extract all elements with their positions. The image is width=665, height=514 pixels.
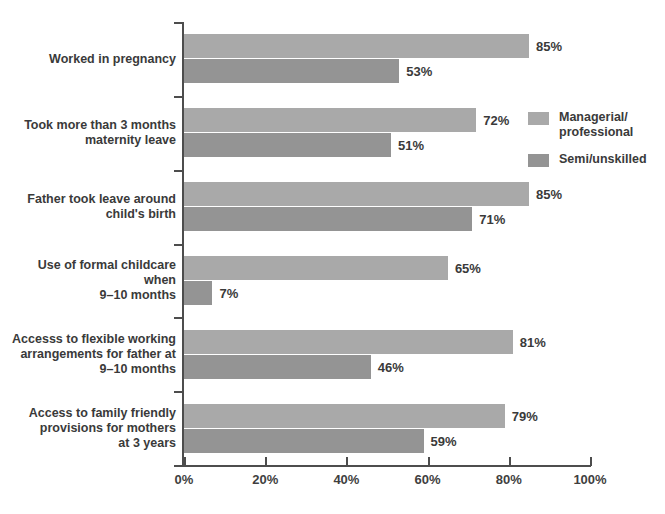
bar-chart: Worked in pregnancyTook more than 3 mont… xyxy=(0,0,665,514)
category-label: Worked in pregnancy xyxy=(4,51,176,66)
y-axis-tick xyxy=(174,170,183,172)
x-axis-tick xyxy=(346,457,348,466)
x-axis-tick-label: 60% xyxy=(415,472,441,487)
x-axis-line xyxy=(183,465,591,467)
legend-swatch-semi-unskilled xyxy=(528,154,549,167)
bar-value-label: 46% xyxy=(378,359,404,374)
y-axis-tick xyxy=(174,96,183,98)
bar-value-label: 51% xyxy=(398,138,424,153)
category-label: Accesss to flexible working arrangements… xyxy=(4,332,176,377)
bar-value-label: 59% xyxy=(431,433,457,448)
bar-value-label: 85% xyxy=(536,39,562,54)
x-axis-tick xyxy=(428,457,430,466)
x-axis-tick xyxy=(509,457,511,466)
x-axis-tick-label: 20% xyxy=(252,472,278,487)
y-axis-tick xyxy=(174,22,183,24)
chart-legend: Managerial/ professional Semi/unskilled xyxy=(528,110,663,179)
y-axis-tick xyxy=(174,244,183,246)
x-axis-tick-label: 0% xyxy=(175,472,194,487)
legend-swatch-managerial-professional xyxy=(528,112,549,125)
category-label: Access to family friendly provisions for… xyxy=(4,406,176,451)
category-label: Took more than 3 months maternity leave xyxy=(4,118,176,148)
y-axis-tick xyxy=(174,391,183,393)
x-axis-tick-label: 100% xyxy=(573,472,606,487)
bar xyxy=(184,108,476,132)
x-axis-tick xyxy=(590,457,592,466)
legend-item-semi-unskilled: Semi/unskilled xyxy=(528,152,663,167)
legend-item-managerial-professional: Managerial/ professional xyxy=(528,110,663,140)
bar-value-label: 72% xyxy=(483,113,509,128)
bar xyxy=(184,429,424,453)
bar-value-label: 7% xyxy=(219,285,238,300)
bar xyxy=(184,133,391,157)
x-axis-tick-label: 80% xyxy=(496,472,522,487)
bar xyxy=(184,281,212,305)
bar xyxy=(184,256,448,280)
y-axis-tick xyxy=(174,317,183,319)
bar-value-label: 65% xyxy=(455,260,481,275)
category-label: Use of formal childcare when 9–10 months xyxy=(4,258,176,303)
bar xyxy=(184,404,505,428)
bar-value-label: 85% xyxy=(536,187,562,202)
x-axis-tick xyxy=(184,457,186,466)
x-axis-tick xyxy=(265,457,267,466)
legend-label-semi-unskilled: Semi/unskilled xyxy=(559,152,647,167)
legend-label-managerial-professional: Managerial/ professional xyxy=(559,110,633,140)
bar xyxy=(184,59,399,83)
bar-value-label: 71% xyxy=(479,212,505,227)
bar xyxy=(184,207,472,231)
bar xyxy=(184,330,513,354)
bar-value-label: 81% xyxy=(520,334,546,349)
x-axis-tick-label: 40% xyxy=(333,472,359,487)
bar xyxy=(184,34,529,58)
category-label: Father took leave around child's birth xyxy=(4,192,176,222)
bar xyxy=(184,182,529,206)
y-axis-tick xyxy=(174,465,183,467)
bar-value-label: 53% xyxy=(406,64,432,79)
category-label-group: Worked in pregnancyTook more than 3 mont… xyxy=(0,0,176,514)
bar-value-label: 79% xyxy=(512,408,538,423)
bar xyxy=(184,355,371,379)
